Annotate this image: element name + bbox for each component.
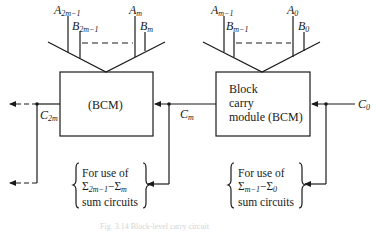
left-note-line-2: Σ2m−1−Σm (82, 180, 138, 196)
label-a-m-1: Am−1 (211, 4, 234, 18)
left-note-close-brace (143, 163, 149, 208)
left-note-line-3: sum circuits (82, 196, 138, 209)
figure-caption: Fig. 3.14 Block-level carry circuit (100, 222, 275, 231)
right-note-line-1: For use of (238, 167, 294, 180)
label-c-m: Cm (180, 108, 194, 122)
right-bcm-label-line-1: Block (229, 82, 303, 96)
label-c-0: C0 (358, 98, 370, 112)
label-b-m: Bm (140, 20, 153, 34)
left-note-open-brace (73, 163, 79, 208)
right-bcm-label-line-2: carry (229, 96, 303, 110)
right-sum-note: For use of Σm−1−Σ0 sum circuits (238, 167, 294, 209)
cm-junction-dot (167, 102, 171, 106)
right-bcm-label: Block carry module (BCM) (229, 82, 303, 124)
right-note-close-brace (299, 163, 305, 208)
c0-junction-dot (324, 102, 328, 106)
right-note-open-brace (228, 163, 234, 208)
right-input-funnel (203, 42, 320, 72)
label-b-m-1: Bm−1 (226, 20, 249, 34)
right-note-line-3: sum circuits (238, 196, 294, 209)
label-a-0: A0 (287, 4, 298, 18)
c2m-junction-dot (35, 102, 39, 106)
label-c-2m: C2m (40, 109, 58, 123)
label-a-2m-1: A2m−1 (54, 4, 81, 18)
left-bcm-label: (BCM) (88, 98, 123, 112)
left-input-funnel (48, 42, 165, 72)
label-a-m: Am (129, 4, 142, 18)
left-sum-note: For use of Σ2m−1−Σm sum circuits (82, 167, 138, 209)
label-b-2m-1: B2m−1 (72, 20, 99, 34)
diagram-canvas: A2m−1 B2m−1 Am Bm Am−1 Bm−1 A0 B0 (BCM) … (0, 0, 376, 233)
right-bcm-label-line-3: module (BCM) (229, 110, 303, 124)
right-note-line-2: Σm−1−Σ0 (238, 180, 294, 196)
label-b-0: B0 (298, 20, 309, 34)
left-note-line-1: For use of (82, 167, 138, 180)
